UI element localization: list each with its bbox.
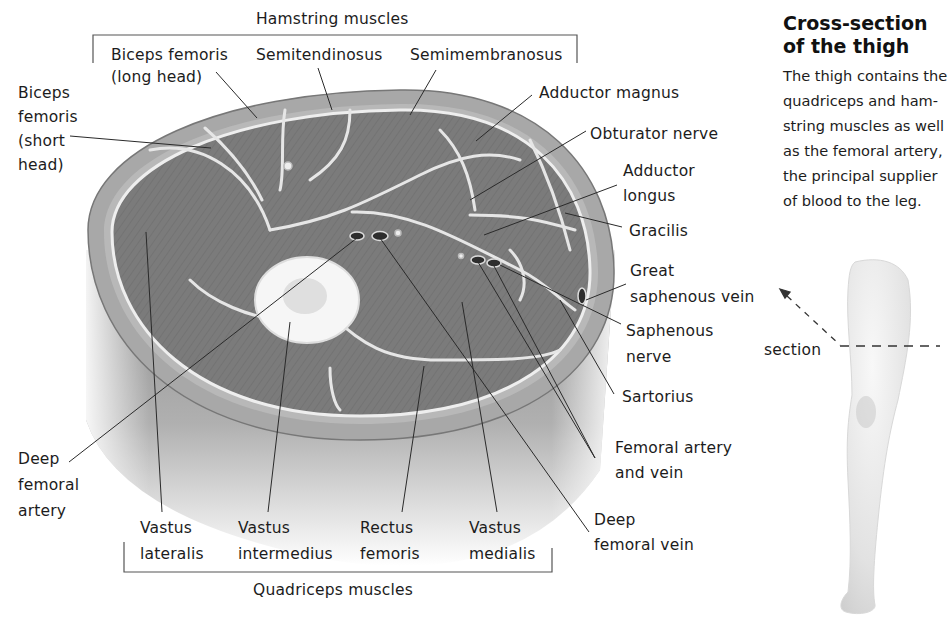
label-sartorius: Sartorius: [622, 386, 694, 408]
label-gracilis: Gracilis: [629, 220, 688, 242]
label-adductor-magnus: Adductor magnus: [539, 82, 679, 104]
label-semitendinosus: Semitendinosus: [256, 44, 382, 66]
label-deep-femoral-artery: Deep femoral artery: [18, 446, 79, 524]
label-vastus-intermedius: Vastus intermedius: [238, 515, 333, 567]
thigh-cross-section-diagram: Hamstring muscles Quadriceps muscles Bic…: [0, 0, 951, 621]
label-femoral-artery-and-vein: Femoral artery and vein: [615, 436, 732, 486]
label-semimembranosus: Semimembranosus: [410, 44, 563, 66]
label-adductor-longus: Adductor longus: [623, 159, 695, 209]
label-biceps-femoris-short-head: Biceps femoris (short head): [18, 81, 78, 177]
label-great-saphenous-vein: Great saphenous vein: [630, 258, 755, 310]
label-vastus-medialis: Vastus medialis: [469, 515, 536, 567]
page-title: Cross-section of the thigh: [783, 12, 928, 58]
description-text: The thigh contains the quadriceps and ha…: [783, 63, 947, 213]
quadriceps-group-label: Quadriceps muscles: [253, 581, 413, 599]
label-biceps-femoris-long-head: Biceps femoris (long head): [111, 44, 228, 88]
leg-figure: [841, 260, 911, 614]
label-obturator-nerve: Obturator nerve: [590, 123, 718, 145]
label-vastus-lateralis: Vastus lateralis: [140, 515, 204, 567]
label-deep-femoral-vein: Deep femoral vein: [594, 508, 694, 558]
section-label: section: [764, 339, 821, 361]
label-rectus-femoris: Rectus femoris: [360, 515, 420, 567]
hamstring-group-label: Hamstring muscles: [256, 10, 409, 28]
label-saphenous-nerve: Saphenous nerve: [626, 318, 714, 370]
femur-bone: [255, 257, 359, 343]
